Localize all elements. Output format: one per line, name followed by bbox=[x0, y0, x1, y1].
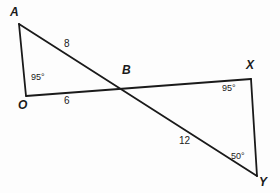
angle-label-Y: 50° bbox=[231, 152, 245, 161]
segment-A-O bbox=[19, 24, 26, 96]
vertex-label-A: A bbox=[10, 6, 19, 18]
geometry-figure bbox=[0, 0, 280, 193]
vertex-label-X: X bbox=[246, 59, 254, 71]
vertex-label-O: O bbox=[18, 99, 27, 111]
diagram-canvas: A O B X Y 8 6 12 95° 95° 50° bbox=[0, 0, 280, 193]
segment-O-X bbox=[26, 79, 251, 96]
vertex-label-Y: Y bbox=[259, 176, 267, 188]
length-label-OB: 6 bbox=[64, 96, 70, 106]
segment-X-Y bbox=[251, 79, 257, 176]
length-label-AB: 8 bbox=[64, 39, 70, 49]
vertex-label-B: B bbox=[122, 64, 131, 76]
length-label-BY: 12 bbox=[179, 136, 190, 146]
angle-label-O: 95° bbox=[31, 73, 45, 82]
segment-layer bbox=[19, 24, 257, 176]
segment-A-Y bbox=[19, 24, 257, 176]
angle-label-X: 95° bbox=[222, 84, 236, 93]
